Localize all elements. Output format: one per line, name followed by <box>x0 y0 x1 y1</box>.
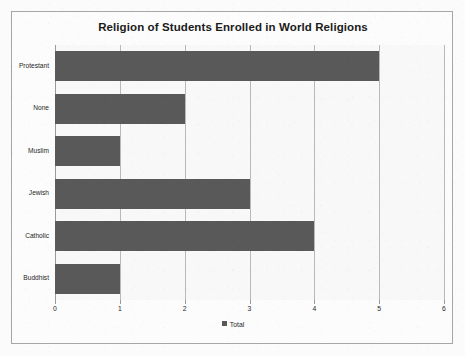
bar-row: None <box>55 88 444 131</box>
bar-row: Catholic <box>55 215 444 258</box>
bar <box>55 264 120 294</box>
y-axis-label-protestant: Protestant <box>0 63 49 70</box>
bar <box>55 94 185 124</box>
x-tick-label-6: 6 <box>435 305 453 312</box>
y-axis-label-jewish: Jewish <box>0 190 49 197</box>
x-tick-label-2: 2 <box>176 305 194 312</box>
x-tick-mark-0 <box>55 300 56 304</box>
bar <box>55 51 379 81</box>
x-tick-mark-5 <box>379 300 380 304</box>
bar-row: Buddhist <box>55 258 444 301</box>
chart-legend: Total <box>12 320 454 328</box>
bar <box>55 221 314 251</box>
x-tick-mark-3 <box>250 300 251 304</box>
legend-label-total: Total <box>230 321 244 328</box>
bar <box>55 179 250 209</box>
y-axis-label-catholic: Catholic <box>0 233 49 240</box>
bar <box>55 136 120 166</box>
x-tick-mark-4 <box>314 300 315 304</box>
x-tick-mark-2 <box>185 300 186 304</box>
y-axis-label-buddhist: Buddhist <box>0 275 49 282</box>
x-axis-ticks: 0123456 <box>55 300 444 314</box>
chart-figure: Religion of Students Enrolled in World R… <box>0 0 465 356</box>
x-tick-mark-1 <box>120 300 121 304</box>
plot-area: ProtestantNoneMuslimJewishCatholicBuddhi… <box>55 45 444 300</box>
legend-square-icon <box>222 321 227 326</box>
x-tick-label-4: 4 <box>305 305 323 312</box>
x-tick-mark-6 <box>444 300 445 304</box>
x-tick-label-3: 3 <box>241 305 259 312</box>
bar-row: Protestant <box>55 45 444 88</box>
y-axis-label-muslim: Muslim <box>0 148 49 155</box>
bar-row: Muslim <box>55 130 444 173</box>
x-tick-label-0: 0 <box>46 305 64 312</box>
chart-plot-frame: Religion of Students Enrolled in World R… <box>11 11 453 344</box>
bar-row: Jewish <box>55 173 444 216</box>
gridline-6 <box>444 45 445 300</box>
chart-title: Religion of Students Enrolled in World R… <box>12 21 454 33</box>
y-axis-label-none: None <box>0 105 49 112</box>
x-tick-label-1: 1 <box>111 305 129 312</box>
x-tick-label-5: 5 <box>370 305 388 312</box>
